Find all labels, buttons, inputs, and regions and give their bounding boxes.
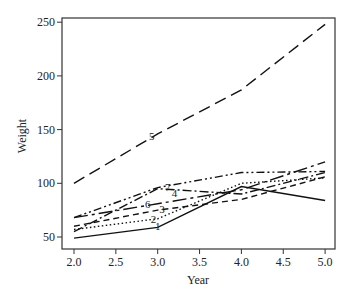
y-tick-label: 200 [37, 69, 55, 83]
series-line-5 [74, 24, 325, 183]
series-line-2 [74, 178, 325, 230]
x-tick-label: 3.5 [192, 255, 207, 269]
series-label-3: 3 [159, 203, 165, 215]
x-tick-label: 5.0 [318, 255, 333, 269]
series-line-3 [74, 177, 325, 226]
y-axis: 50100150200250 [37, 15, 62, 244]
x-axis: 2.02.53.03.54.04.55.0 [67, 249, 333, 269]
y-tick-label: 50 [43, 230, 55, 244]
x-tick-label: 4.0 [234, 255, 249, 269]
x-tick-label: 2.0 [67, 255, 82, 269]
series-label-2: 2 [151, 213, 157, 225]
series-line-4 [74, 173, 325, 232]
plot-frame [62, 18, 335, 249]
series-label-7: 7 [165, 181, 171, 193]
y-tick-label: 150 [37, 123, 55, 137]
y-tick-label: 100 [37, 176, 55, 190]
x-tick-label: 2.5 [108, 255, 123, 269]
y-axis-title: Weight [15, 118, 29, 153]
series-line-6 [74, 162, 325, 218]
x-axis-title: Year [187, 273, 209, 287]
series-label-4: 4 [172, 187, 178, 199]
series-label-6: 6 [145, 198, 151, 210]
series-label-5: 5 [149, 130, 155, 142]
series-lines [74, 24, 325, 238]
y-tick-label: 250 [37, 15, 55, 29]
x-tick-label: 4.5 [276, 255, 291, 269]
line-chart: 2.02.53.03.54.04.55.0 50100150200250 123… [0, 0, 353, 302]
x-tick-label: 3.0 [150, 255, 165, 269]
